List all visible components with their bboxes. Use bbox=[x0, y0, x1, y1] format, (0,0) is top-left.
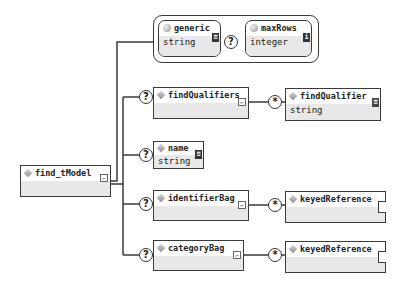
element-diamond-icon bbox=[157, 90, 165, 98]
many-occurrence-icon: * bbox=[268, 198, 282, 212]
optional-occurrence-icon: ? bbox=[139, 148, 153, 162]
expand-icon[interactable]: ⌐ bbox=[238, 98, 246, 106]
expand-icon[interactable]: ⌐ bbox=[100, 174, 108, 182]
optional-occurrence-icon: ? bbox=[139, 197, 153, 211]
collapsed-children-icon[interactable] bbox=[378, 201, 386, 213]
element-diamond-icon bbox=[157, 193, 165, 201]
documentation-icon: ≡ bbox=[212, 33, 219, 42]
documentation-icon: ≡ bbox=[372, 98, 379, 107]
schema-diagram: find_tModel ⌐ generic string ≡ ? maxRows… bbox=[0, 0, 399, 285]
element-name: identifierBag bbox=[168, 193, 235, 203]
info-icon: i bbox=[303, 33, 310, 42]
many-occurrence-icon: * bbox=[268, 248, 282, 262]
element-diamond-icon bbox=[289, 91, 297, 99]
attribute-dot-icon bbox=[163, 24, 171, 32]
element-name: keyedReference bbox=[300, 194, 372, 204]
root-element-find-tmodel[interactable]: find_tModel ⌐ bbox=[20, 165, 111, 197]
expand-icon[interactable]: ⌐ bbox=[238, 201, 246, 209]
element-diamond-icon bbox=[289, 194, 297, 202]
element-diamond-icon bbox=[157, 243, 165, 251]
element-name: keyedReference bbox=[300, 244, 372, 254]
collapsed-children-icon[interactable] bbox=[378, 251, 386, 263]
element-findqualifier[interactable]: findQualifier string ≡ bbox=[285, 88, 381, 121]
element-diamond-icon bbox=[24, 168, 32, 176]
attribute-generic[interactable]: generic string ≡ bbox=[158, 20, 221, 57]
element-findqualifiers[interactable]: findQualifiers ⌐ bbox=[153, 87, 249, 119]
element-name: categoryBag bbox=[168, 243, 224, 253]
attribute-name: generic bbox=[174, 23, 210, 33]
attribute-type: string bbox=[159, 36, 220, 56]
element-keyedreference-category[interactable]: keyedReference bbox=[285, 241, 386, 273]
optional-occurrence-icon: ? bbox=[139, 248, 153, 262]
element-diamond-icon bbox=[289, 244, 297, 252]
attribute-type: integer bbox=[246, 36, 311, 56]
attribute-name: maxRows bbox=[261, 23, 297, 33]
element-categorybag[interactable]: categoryBag ⌐ bbox=[153, 240, 244, 271]
element-name: findQualifiers bbox=[168, 90, 240, 100]
element-keyedreference-identifier[interactable]: keyedReference bbox=[285, 191, 386, 223]
expand-icon[interactable]: ⌐ bbox=[233, 251, 241, 259]
element-diamond-icon bbox=[157, 143, 165, 151]
attribute-dot-icon bbox=[250, 24, 258, 32]
many-occurrence-icon: * bbox=[268, 95, 282, 109]
attribute-maxrows[interactable]: maxRows integer i bbox=[245, 20, 312, 57]
element-identifierbag[interactable]: identifierBag ⌐ bbox=[153, 190, 249, 221]
element-name: name bbox=[168, 143, 188, 153]
documentation-icon: ≡ bbox=[195, 150, 202, 159]
attributes-group: generic string ≡ ? maxRows integer i bbox=[153, 15, 319, 63]
optional-occurrence-icon: ? bbox=[139, 90, 153, 104]
element-name: findQualifier bbox=[300, 91, 367, 101]
element-type: string bbox=[286, 104, 380, 120]
element-name-node[interactable]: name string ≡ bbox=[153, 141, 204, 169]
element-name: find_tModel bbox=[35, 168, 91, 178]
optional-occurrence-icon: ? bbox=[224, 35, 238, 49]
